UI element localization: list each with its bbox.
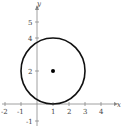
x-axis-label: x [117,101,121,109]
y-tick-label: -1 [26,118,33,126]
coordinate-plane: x y -2 -1 1 2 3 4 -1 2 4 5 [0,0,121,133]
center-point [51,69,55,73]
x-tick-label: -2 [1,108,8,116]
y-tick-label: 2 [28,68,32,76]
x-tick-label: -1 [17,108,24,116]
x-tick-label: 2 [67,108,71,116]
x-tick-label: 1 [51,108,55,116]
y-tick-label: 5 [28,19,32,27]
x-tick-label: 3 [83,108,87,116]
y-tick-label: 4 [28,35,33,43]
x-tick-label: 4 [99,108,104,116]
y-axis-label: y [36,0,42,8]
